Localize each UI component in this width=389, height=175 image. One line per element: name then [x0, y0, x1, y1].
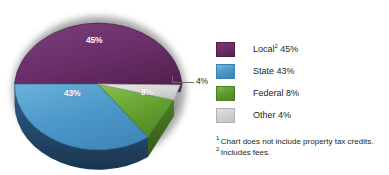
pie-top-faces	[8, 2, 190, 172]
gray-swatch-icon	[216, 108, 235, 123]
footnote-1-mark: 1	[216, 135, 219, 141]
pie-label-other: 4%	[196, 76, 208, 86]
legend-item-label-local: Local2 45%	[253, 44, 298, 54]
legend-item-label-federal: Federal 8%	[253, 88, 299, 98]
footnote-2-mark: 2	[216, 146, 219, 152]
legend-item-federal[interactable]: Federal 8%	[216, 82, 376, 104]
pie-slice-local[interactable]	[15, 23, 183, 84]
footnote-1: 1Chart does not include property tax cre…	[216, 137, 388, 148]
chart-footnotes: 1Chart does not include property tax cre…	[216, 137, 388, 158]
green-swatch-icon	[216, 86, 235, 101]
chart-legend: Local2 45% State 43% Federal 8% Other 4%	[216, 38, 376, 126]
footnote-ref-2: 2	[275, 43, 278, 49]
pie-chart: 45% 43% 8%	[8, 2, 190, 172]
legend-item-label-other: Other 4%	[253, 110, 291, 120]
legend-item-label-state: State 43%	[253, 66, 295, 76]
legend-item-state[interactable]: State 43%	[216, 60, 376, 82]
footnote-1-text: Chart does not include property tax cred…	[221, 137, 374, 146]
purple-swatch-icon	[216, 42, 235, 57]
legend-item-local[interactable]: Local2 45%	[216, 38, 376, 60]
footnote-2: 2Includes fees.	[216, 148, 388, 159]
blue-swatch-icon	[216, 64, 235, 79]
pie-leader-line-other	[172, 82, 194, 83]
footnote-2-text: Includes fees.	[221, 148, 270, 157]
legend-item-other[interactable]: Other 4%	[216, 104, 376, 126]
